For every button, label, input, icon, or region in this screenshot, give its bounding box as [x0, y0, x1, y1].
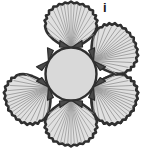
panel-label: i	[103, 1, 107, 15]
diagram-canvas: .shell-body { fill: #e0e0e0; stroke: #30…	[0, 0, 142, 152]
figure-panel: .shell-body { fill: #e0e0e0; stroke: #30…	[0, 0, 142, 152]
shell-top	[45, 2, 98, 50]
shell-bottom	[45, 99, 98, 147]
central-disc	[46, 48, 97, 101]
